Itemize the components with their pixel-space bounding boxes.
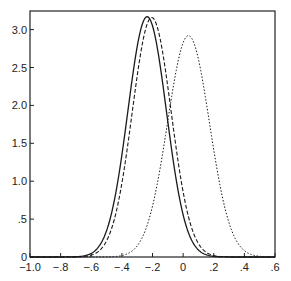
x-tick-label: −.6 — [83, 261, 99, 273]
y-tick-label: 1.0 — [12, 175, 27, 187]
plot-frame — [30, 11, 275, 257]
y-axis-ticks: 0.51.01.52.02.53.0 — [12, 24, 34, 263]
x-tick-label: 0 — [180, 261, 186, 273]
dotted-density-curve — [30, 36, 275, 257]
y-tick-label: 0 — [21, 251, 27, 263]
y-tick-label: 1.5 — [12, 137, 27, 149]
x-tick-label: .4 — [240, 261, 249, 273]
x-tick-label: −.2 — [145, 261, 161, 273]
density-chart: −1.0−.8−.6−.4−.20.2.4.6 0.51.01.52.02.53… — [0, 0, 291, 281]
y-tick-label: 3.0 — [12, 24, 27, 36]
y-tick-label: .5 — [18, 213, 27, 225]
x-tick-label: .2 — [209, 261, 218, 273]
x-tick-label: .6 — [270, 261, 279, 273]
density-curves — [30, 17, 275, 257]
solid-density-curve — [30, 17, 275, 257]
x-tick-label: −.4 — [114, 261, 130, 273]
x-tick-label: −.8 — [53, 261, 69, 273]
dashed-density-curve — [30, 17, 275, 257]
y-tick-label: 2.5 — [12, 62, 27, 74]
x-axis-ticks: −1.0−.8−.6−.4−.20.2.4.6 — [19, 253, 279, 273]
y-tick-label: 2.0 — [12, 99, 27, 111]
